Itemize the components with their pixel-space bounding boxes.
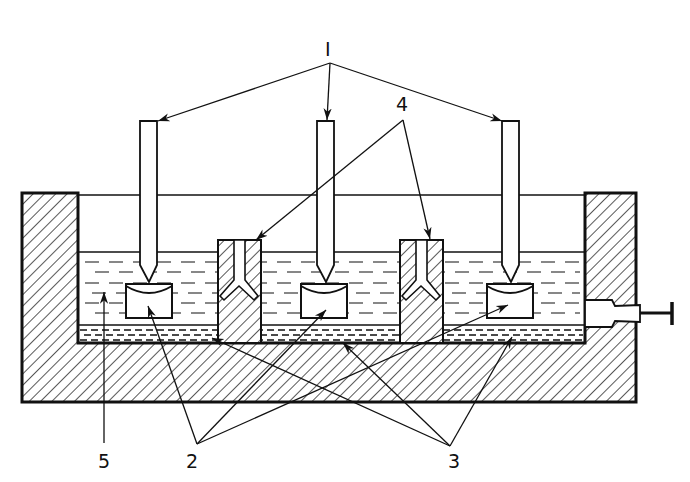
label-1: I	[325, 40, 331, 59]
partition-right	[400, 240, 443, 343]
probe-center	[317, 121, 334, 282]
sample-cup-right	[487, 284, 533, 318]
partition-left	[218, 240, 261, 343]
label-3: 3	[448, 452, 460, 471]
probe-right	[502, 121, 519, 282]
probe-left	[140, 121, 157, 282]
label-5: 5	[98, 452, 110, 471]
diagram-canvas	[0, 0, 690, 482]
label-2: 2	[186, 452, 198, 471]
sample-cup-left	[126, 284, 172, 318]
label-4: 4	[396, 95, 408, 114]
bottom-layer	[78, 325, 585, 340]
